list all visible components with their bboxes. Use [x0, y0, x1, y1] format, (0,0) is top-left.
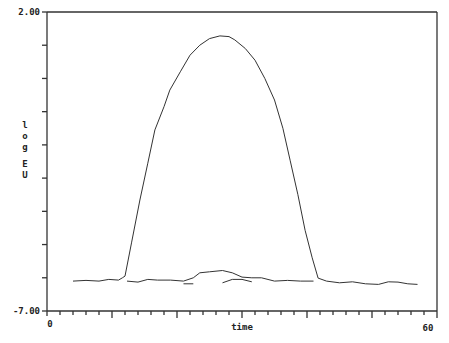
- y-title-char: g: [22, 142, 27, 152]
- y-title-char: o: [22, 131, 27, 141]
- series-lower-dash-2: [223, 279, 252, 282]
- line-chart: 2.00 -7.00 0 60 time l o g E U: [0, 0, 449, 343]
- y-title-char: U: [22, 170, 27, 180]
- x-tick-label-right: 60: [423, 323, 434, 333]
- plot-frame: [47, 12, 437, 311]
- series-lower-trace: [127, 271, 314, 283]
- y-ticks: [42, 12, 47, 311]
- y-title-char: E: [22, 159, 27, 169]
- y-title-char: l: [22, 120, 27, 130]
- y-tick-label-top: 2.00: [18, 7, 40, 17]
- x-tick-label-left: 0: [47, 319, 52, 329]
- x-ticks: [47, 311, 437, 318]
- x-axis-title: time: [231, 322, 253, 332]
- series-main-response: [73, 36, 318, 281]
- series-group: [73, 36, 418, 285]
- y-axis-title: l o g E U: [22, 120, 27, 180]
- series-baseline-after: [318, 278, 417, 284]
- y-tick-label-bottom: -7.00: [13, 306, 40, 316]
